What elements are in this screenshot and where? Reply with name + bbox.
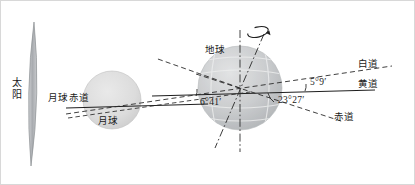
moon-equator-label: 月球赤道 bbox=[48, 93, 89, 103]
angle-label-earth-tilt: 23°27′ bbox=[278, 96, 305, 106]
moon-label: 月球 bbox=[98, 116, 119, 126]
celestial-equator-label: 赤道 bbox=[334, 112, 355, 122]
angle-arc-lunar-orbit bbox=[305, 84, 306, 91]
sun-label: 太阳 bbox=[10, 77, 20, 101]
sun-body bbox=[29, 22, 37, 166]
angle-label-moon-equator: 6°41′ bbox=[200, 98, 222, 108]
diagram-canvas: 太阳 月球赤道 月球 地球 白道 黄道 赤道 6°41′ 5°9′ 23°27′ bbox=[0, 0, 415, 185]
rotation-arrow-icon bbox=[247, 25, 271, 40]
angle-label-lunar-orbit: 5°9′ bbox=[310, 78, 327, 88]
lunar-orbit-label: 白道 bbox=[358, 59, 379, 69]
ecliptic-label: 黄道 bbox=[358, 79, 379, 89]
earth-label: 地球 bbox=[205, 45, 226, 55]
